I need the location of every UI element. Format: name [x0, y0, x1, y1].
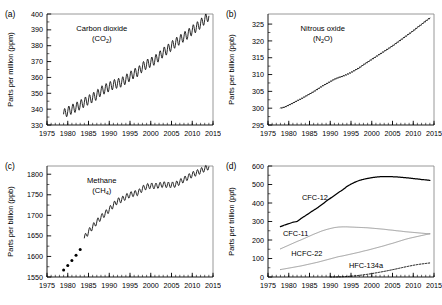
series-label-CFC-11: CFC-11 — [283, 229, 308, 238]
y-axis-title: Parts per billion (ppb) — [6, 186, 15, 256]
x-tick-label: 1995 — [343, 129, 359, 138]
panel-letter: (c) — [5, 161, 15, 171]
x-tick-label: 2000 — [364, 129, 380, 138]
plot-axis-left-bottom — [268, 14, 434, 125]
x-tick-label: 1995 — [343, 281, 359, 290]
gas-formula: (CH4) — [92, 186, 112, 196]
x-tick-label: 2015 — [426, 281, 442, 290]
panel-methane: (c)1975198019851990199520002005201020151… — [0, 152, 221, 304]
panel-letter: (a) — [5, 9, 16, 19]
y-tick-label: 330 — [31, 121, 43, 130]
x-tick-label: 1985 — [81, 129, 97, 138]
data-point — [70, 259, 73, 262]
gas-name: Nitrous oxide — [301, 24, 345, 33]
x-tick-label: 2005 — [385, 281, 401, 290]
x-tick-label: 1990 — [322, 281, 338, 290]
y-tick-label: 1700 — [27, 211, 43, 220]
plot-b: (b)1975198019851990199520002005201020152… — [221, 0, 442, 153]
y-tick-label: 100 — [252, 254, 264, 263]
x-tick-label: 1990 — [322, 129, 338, 138]
x-tick-label: 1990 — [101, 129, 117, 138]
panel-letter: (b) — [226, 9, 237, 19]
plot-axis-left-bottom — [268, 166, 434, 277]
y-tick-label: 315 — [252, 53, 264, 62]
x-tick-label: 2010 — [405, 281, 421, 290]
y-tick-label: 400 — [31, 10, 43, 19]
y-tick-label: 1800 — [27, 170, 43, 179]
gas-name: Carbon dioxide — [76, 24, 127, 33]
x-tick-label: 1995 — [122, 129, 138, 138]
x-tick-label: 1975 — [260, 281, 276, 290]
x-tick-label: 1985 — [302, 281, 318, 290]
y-tick-label: 1750 — [27, 190, 43, 199]
data-point — [66, 264, 69, 267]
x-tick-label: 1990 — [101, 281, 117, 290]
panel-halocarbons: (d)1975198019851990199520002005201020150… — [221, 152, 442, 304]
y-tick-label: 325 — [252, 20, 264, 29]
x-tick-label: 1985 — [302, 129, 318, 138]
y-tick-label: 1550 — [27, 273, 43, 282]
x-tick-label: 1980 — [281, 281, 297, 290]
y-tick-label: 1650 — [27, 231, 43, 240]
x-tick-label: 2005 — [164, 281, 180, 290]
greenhouse-gas-figure: (a)1975198019851990199520002005201020153… — [0, 0, 442, 305]
y-tick-label: 370 — [31, 57, 43, 66]
x-tick-label: 2000 — [364, 281, 380, 290]
x-tick-label: 2010 — [184, 281, 200, 290]
x-tick-label: 1980 — [60, 129, 76, 138]
y-tick-label: 1600 — [27, 252, 43, 261]
y-tick-label: 305 — [252, 87, 264, 96]
x-tick-label: 2005 — [385, 129, 401, 138]
plot-a: (a)1975198019851990199520002005201020153… — [0, 0, 221, 153]
x-tick-label: 1975 — [39, 281, 55, 290]
plot-frame-top-right — [268, 14, 434, 125]
gas-name: Methane — [87, 176, 117, 185]
y-tick-label: 300 — [252, 217, 264, 226]
x-tick-label: 1995 — [122, 281, 138, 290]
x-tick-label: 2015 — [426, 129, 442, 138]
x-tick-label: 2000 — [143, 129, 159, 138]
series-label-HCFC-22: HCFC-22 — [291, 249, 322, 258]
x-tick-label: 2010 — [405, 129, 421, 138]
plot-c: (c)1975198019851990199520002005201020151… — [0, 152, 221, 305]
x-tick-label: 2000 — [143, 281, 159, 290]
y-tick-label: 0 — [260, 273, 264, 282]
gas-formula: (N2O) — [313, 34, 333, 44]
panel-carbon-dioxide: (a)1975198019851990199520002005201020153… — [0, 0, 221, 152]
x-tick-label: 2010 — [184, 129, 200, 138]
panel-nitrous-oxide: (b)1975198019851990199520002005201020152… — [221, 0, 442, 152]
y-tick-label: 360 — [31, 73, 43, 82]
y-tick-label: 300 — [252, 104, 264, 113]
x-tick-label: 2015 — [205, 281, 221, 290]
y-tick-label: 380 — [31, 41, 43, 50]
y-tick-label: 400 — [252, 199, 264, 208]
y-axis-title: Parts per trillion (ppt) — [227, 187, 236, 256]
y-axis-title: Parts per million (ppm) — [6, 32, 15, 106]
y-axis-title: Parts per billion (ppb) — [227, 34, 236, 104]
panel-letter: (d) — [226, 161, 237, 171]
y-tick-label: 390 — [31, 25, 43, 34]
y-tick-label: 350 — [31, 89, 43, 98]
data-point — [79, 248, 82, 251]
x-tick-label: 2005 — [164, 129, 180, 138]
x-tick-label: 1985 — [81, 281, 97, 290]
y-tick-label: 310 — [252, 70, 264, 79]
y-tick-label: 295 — [252, 121, 264, 130]
series-label-CFC-12: CFC-12 — [302, 193, 328, 202]
plot-d: (d)1975198019851990199520002005201020150… — [221, 152, 442, 305]
plot-frame-top-right — [268, 166, 434, 277]
x-tick-label: 1975 — [39, 129, 55, 138]
y-tick-label: 200 — [252, 236, 264, 245]
y-tick-label: 340 — [31, 105, 43, 114]
data-point — [62, 269, 65, 272]
y-tick-label: 500 — [252, 180, 264, 189]
y-tick-label: 600 — [252, 162, 264, 171]
x-tick-label: 1980 — [60, 281, 76, 290]
gas-formula: (CO2) — [92, 34, 112, 44]
data-point — [75, 254, 78, 257]
x-tick-label: 1980 — [281, 129, 297, 138]
y-tick-label: 320 — [252, 37, 264, 46]
series-label-HFC-134a: HFC-134a — [349, 261, 384, 270]
x-tick-label: 1975 — [260, 129, 276, 138]
x-tick-label: 2015 — [205, 129, 221, 138]
